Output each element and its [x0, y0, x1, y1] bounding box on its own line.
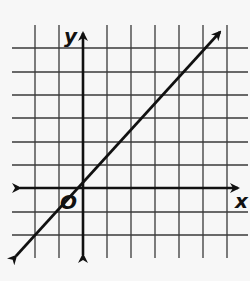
- y-axis-label: y: [64, 24, 78, 48]
- origin-label: O: [60, 190, 77, 214]
- x-axis-label: x: [234, 189, 249, 213]
- function-line: [16, 32, 220, 256]
- coordinate-plane: y x O: [0, 0, 250, 281]
